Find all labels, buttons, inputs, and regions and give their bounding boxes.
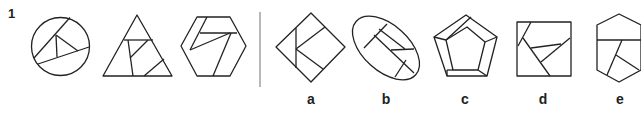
option-a-figure[interactable] — [276, 13, 345, 82]
option-label-e[interactable]: e — [610, 91, 630, 107]
option-label-a[interactable]: a — [301, 91, 321, 107]
option-label-b[interactable]: b — [376, 91, 396, 107]
option-b-figure[interactable] — [341, 4, 431, 92]
given-figure-circle — [32, 18, 90, 76]
option-c-figure[interactable] — [434, 15, 497, 76]
given-figure-triangle — [103, 15, 172, 76]
option-d-figure[interactable] — [517, 22, 571, 76]
given-figure-hexagon — [181, 17, 246, 76]
option-e-figure[interactable] — [597, 14, 641, 82]
option-label-c[interactable]: c — [455, 91, 475, 107]
option-label-d[interactable]: d — [533, 91, 553, 107]
